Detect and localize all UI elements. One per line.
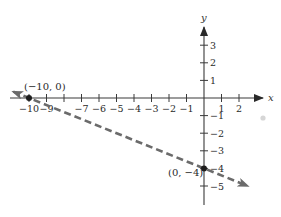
graph-figure: xy −10−9−7−6−5−4−3−2−112321−1−2−3−4−5 (−… (0, 0, 281, 217)
coordinate-plane: xy −10−9−7−6−5−4−3−2−112321−1−2−3−4−5 (−… (0, 0, 281, 217)
x-tick-label: −2 (162, 103, 176, 114)
point-y-intercept-label: (0, −4) (168, 167, 203, 178)
y-tick-label: −3 (210, 145, 224, 156)
y-axis-label: y (200, 12, 207, 23)
tick-labels: −10−9−7−6−5−4−3−2−112321−1−2−3−4−5 (19, 40, 242, 192)
y-tick-label: 1 (210, 75, 216, 86)
x-axis-label: x (268, 92, 274, 103)
point-x-intercept (26, 95, 32, 101)
x-tick-label: −3 (144, 103, 158, 114)
y-tick-label: −2 (210, 128, 224, 139)
x-tick-label: −5 (109, 103, 123, 114)
y-tick-label: −1 (210, 110, 224, 121)
stray-dot (260, 115, 265, 120)
x-tick-label: −6 (92, 103, 106, 114)
y-tick-label: 2 (210, 57, 216, 68)
y-tick-label: −5 (210, 181, 224, 192)
x-tick-label: −1 (179, 103, 193, 114)
x-tick-label: −7 (74, 103, 88, 114)
tick-marks (29, 45, 239, 186)
x-tick-label: 2 (236, 103, 242, 114)
labeled-points: (−10, 0)(0, −4) (24, 81, 207, 178)
x-tick-label: −10 (19, 103, 39, 114)
point-x-intercept-label: (−10, 0) (24, 81, 66, 92)
x-tick-label: −4 (127, 103, 141, 114)
y-tick-label: 3 (210, 40, 216, 51)
